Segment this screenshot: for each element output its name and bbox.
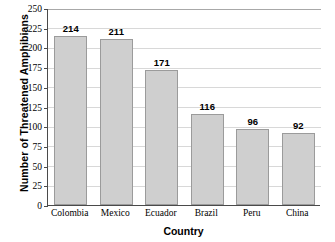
plot-area: 0255075100125150175200225250 21421117111… [47, 9, 320, 206]
bar-value-label: 171 [154, 57, 170, 68]
x-tick-label-colombia: Colombia [51, 208, 88, 218]
bar-mexico[interactable] [100, 39, 133, 205]
bar-peru[interactable] [236, 129, 269, 205]
gridline [48, 87, 321, 88]
bar-value-label: 116 [200, 101, 215, 112]
y-tick-mark [44, 167, 48, 168]
gridline [48, 107, 321, 108]
y-tick-label: 175 [28, 63, 42, 73]
y-tick-label: 25 [33, 181, 43, 191]
y-tick-label: 75 [33, 142, 43, 152]
bar-colombia[interactable] [54, 36, 87, 205]
bar-chart: Number of Threatened Amphibians 02550751… [0, 0, 335, 242]
y-tick-label: 0 [37, 201, 42, 211]
bar-china[interactable] [282, 133, 315, 205]
gridline [48, 68, 321, 69]
y-tick-label: 125 [28, 103, 42, 113]
y-tick-label: 50 [33, 162, 43, 172]
gridline [48, 146, 321, 147]
y-tick-mark [44, 186, 48, 187]
bar-ecuador[interactable] [145, 70, 178, 205]
gridline [48, 28, 321, 29]
y-tick-mark [44, 9, 48, 10]
x-tick-label-peru: Peru [243, 208, 260, 218]
bar-value-label: 96 [247, 116, 258, 127]
x-axis-title: Country [47, 225, 320, 237]
gridline [48, 186, 321, 187]
x-tick-label-mexico: Mexico [101, 208, 130, 218]
y-tick-mark [44, 88, 48, 89]
gridline [48, 127, 321, 128]
gridline [48, 48, 321, 49]
y-tick-mark [44, 206, 48, 207]
x-tick-label-brazil: Brazil [195, 208, 218, 218]
bar-value-label: 211 [109, 26, 124, 37]
y-tick-mark [44, 48, 48, 49]
gridline [48, 166, 321, 167]
y-tick-label: 100 [28, 122, 42, 132]
y-tick-label: 250 [28, 4, 42, 14]
y-tick-label: 150 [28, 83, 42, 93]
bar-brazil[interactable] [191, 114, 224, 205]
y-tick-label: 200 [28, 43, 42, 53]
y-tick-mark [44, 127, 48, 128]
x-tick-label-china: China [286, 208, 309, 218]
x-tick-label-ecuador: Ecuador [145, 208, 177, 218]
bar-value-label: 92 [293, 120, 304, 131]
y-tick-mark [44, 108, 48, 109]
y-tick-mark [44, 68, 48, 69]
bar-value-label: 214 [63, 23, 79, 34]
y-tick-mark [44, 29, 48, 30]
gridline [48, 9, 321, 10]
y-tick-mark [44, 147, 48, 148]
y-tick-label: 225 [28, 24, 42, 34]
